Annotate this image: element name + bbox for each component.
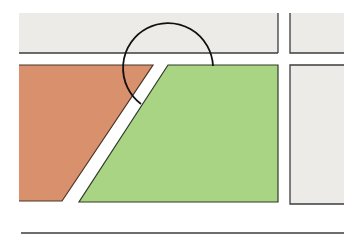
site-plan-diagram [0,0,357,241]
top-right-gray-block [290,13,344,53]
bottom-right-gray-block [290,65,344,204]
top-gray-block [19,13,278,53]
